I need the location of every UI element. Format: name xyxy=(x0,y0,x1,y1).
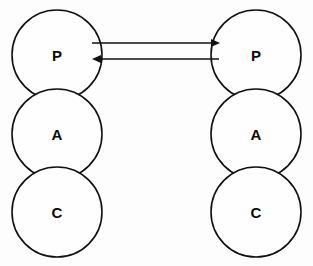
label-right-abstraction: A xyxy=(250,126,261,143)
label-right-control: C xyxy=(250,204,261,221)
node-left-abstraction[interactable]: A xyxy=(12,89,102,179)
node-left-control[interactable]: C xyxy=(12,167,102,257)
diagram-canvas: P A C P A C xyxy=(0,0,313,266)
right-agent-column: P A C xyxy=(211,10,301,257)
node-left-presentation[interactable]: P xyxy=(12,10,102,100)
left-agent-column: P A C xyxy=(12,10,102,257)
label-left-presentation: P xyxy=(52,47,62,64)
label-left-control: C xyxy=(51,204,62,221)
pac-diagram: P A C P A C xyxy=(0,0,313,266)
node-right-presentation[interactable]: P xyxy=(211,10,301,100)
arrow-left-to-right[interactable] xyxy=(92,39,220,47)
node-right-abstraction[interactable]: A xyxy=(211,89,301,179)
arrow-right-to-left[interactable] xyxy=(92,55,219,63)
node-right-control[interactable]: C xyxy=(211,167,301,257)
label-left-abstraction: A xyxy=(51,126,62,143)
label-right-presentation: P xyxy=(251,47,261,64)
